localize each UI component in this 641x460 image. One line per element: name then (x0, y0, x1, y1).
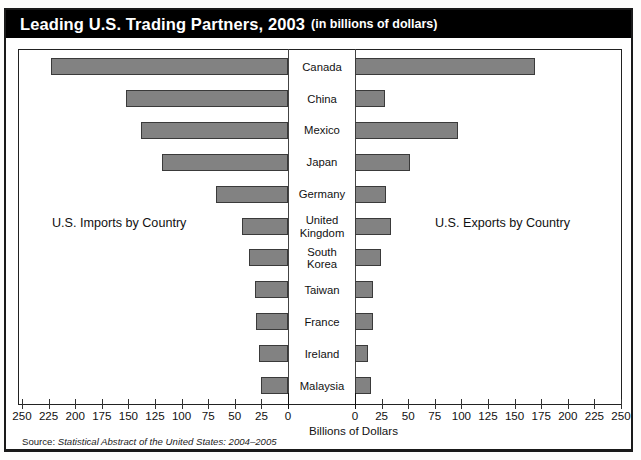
axis-tick-label: 0 (285, 409, 291, 422)
table-row: Ireland (0, 338, 641, 370)
export-bar (355, 58, 535, 75)
table-row: Germany (0, 179, 641, 211)
import-bar (51, 58, 288, 75)
axis-tick-label: 150 (119, 409, 138, 422)
exports-caption: U.S. Exports by Country (435, 216, 570, 230)
export-bar (355, 313, 373, 330)
category-label: Canada (289, 51, 355, 83)
axis-tick (408, 399, 409, 409)
category-label-line: Korea (307, 258, 337, 271)
category-label-line: Japan (307, 156, 338, 169)
import-bar (259, 345, 288, 362)
axis-tick (594, 399, 595, 409)
table-row: China (0, 83, 641, 115)
export-bar (355, 218, 391, 235)
axis-tick (155, 399, 156, 409)
axis-tick-label: 150 (505, 409, 524, 422)
import-bar (261, 377, 288, 394)
category-label: Taiwan (289, 274, 355, 306)
axis-tick-label: 25 (375, 409, 388, 422)
category-label-line: United (306, 214, 339, 227)
axis-tick-label: 0 (352, 409, 358, 422)
import-bar (249, 249, 288, 266)
category-label: China (289, 83, 355, 115)
import-bar (126, 90, 288, 107)
axis-tick-label: 175 (92, 409, 111, 422)
axis-tick (382, 399, 383, 409)
category-label: Mexico (289, 115, 355, 147)
axis-tick-label: 250 (611, 409, 630, 422)
import-bar (242, 218, 288, 235)
source-note: Source: Statistical Abstract of the Unit… (22, 436, 277, 447)
axis-tick (128, 399, 129, 409)
axis-tick-label: 250 (12, 409, 31, 422)
imports-caption: U.S. Imports by Country (52, 216, 186, 230)
axis-tick (621, 399, 622, 409)
chart-page: Leading U.S. Trading Partners, 2003 (in … (0, 0, 641, 460)
axis-tick-label: 200 (558, 409, 577, 422)
category-label: Japan (289, 147, 355, 179)
axis-tick (75, 399, 76, 409)
export-bar (355, 281, 373, 298)
source-citation: Statistical Abstract of the United State… (58, 436, 277, 447)
axis-tick (355, 393, 356, 409)
axis-tick (235, 399, 236, 409)
axis-tick-label: 225 (39, 409, 58, 422)
axis-title-text: Billions of Dollars (309, 424, 398, 437)
axis-tick (515, 399, 516, 409)
axis-tick-label: 200 (66, 409, 85, 422)
category-label: Ireland (289, 338, 355, 370)
axis-tick (288, 393, 289, 409)
import-bar (216, 186, 288, 203)
axis-tick (102, 399, 103, 409)
category-label-line: Germany (299, 188, 345, 201)
axis-tick (22, 399, 23, 409)
table-row: France (0, 306, 641, 338)
axis-tick (182, 399, 183, 409)
axis-tick (488, 399, 489, 409)
import-bar (256, 313, 288, 330)
axis-tick-label: 175 (532, 409, 551, 422)
category-label-line: China (307, 93, 337, 106)
export-bar (355, 377, 371, 394)
category-label-line: Malaysia (300, 380, 345, 393)
table-row: Canada (0, 51, 641, 83)
category-label-line: Taiwan (304, 284, 339, 297)
table-row: Mexico (0, 115, 641, 147)
export-bar (355, 345, 368, 362)
category-label: SouthKorea (289, 242, 355, 274)
axis-tick (461, 399, 462, 409)
category-label-line: Canada (302, 61, 342, 74)
axis-tick-label: 125 (145, 409, 164, 422)
import-bar (255, 281, 288, 298)
axis-tick-label: 125 (478, 409, 497, 422)
axis-tick-label: 25 (255, 409, 268, 422)
bar-rows: CanadaChinaMexicoJapanGermanyUnitedKingd… (0, 0, 641, 460)
axis-tick-label: 75 (428, 409, 441, 422)
table-row: Japan (0, 147, 641, 179)
table-row: SouthKorea (0, 242, 641, 274)
category-label-line: France (304, 316, 339, 329)
axis-tick-label: 225 (585, 409, 604, 422)
axis-line (19, 404, 622, 405)
category-label: UnitedKingdom (289, 211, 355, 243)
axis-tick (435, 399, 436, 409)
axis-tick (208, 399, 209, 409)
category-label-line: South (307, 246, 337, 259)
category-label-line: Ireland (305, 348, 340, 361)
axis-tick-label: 100 (172, 409, 191, 422)
export-bar (355, 90, 385, 107)
axis-tick (49, 399, 50, 409)
axis-tick-label: 75 (202, 409, 215, 422)
axis-tick (261, 399, 262, 409)
axis-tick-label: 100 (452, 409, 471, 422)
category-label: Germany (289, 179, 355, 211)
export-bar (355, 249, 381, 266)
export-bar (355, 154, 410, 171)
category-label: Malaysia (289, 370, 355, 402)
axis-tick (568, 399, 569, 409)
table-row: Malaysia (0, 370, 641, 402)
axis-tick-label: 50 (228, 409, 241, 422)
source-rule (6, 449, 631, 450)
category-label: France (289, 306, 355, 338)
